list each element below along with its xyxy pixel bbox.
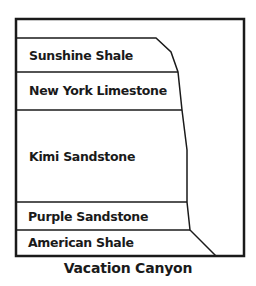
layer-label-american-shale: American Shale [28,235,134,250]
layer-label-new-york-limestone: New York Limestone [29,83,167,98]
layer-label-kimi-sandstone: Kimi Sandstone [29,149,135,164]
layer-label-purple-sandstone: Purple Sandstone [28,209,148,224]
diagram-title: Vacation Canyon [0,260,256,276]
layer-label-sunshine-shale: Sunshine Shale [29,48,133,63]
